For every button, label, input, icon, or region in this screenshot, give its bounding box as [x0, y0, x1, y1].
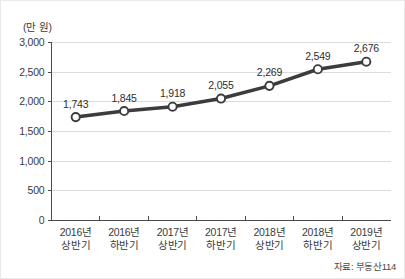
- x-tick-label: 2018년: [253, 226, 285, 238]
- y-tick-label: 2,500: [19, 66, 45, 78]
- data-point-marker: [217, 94, 225, 102]
- y-tick-label: 500: [28, 184, 45, 196]
- data-point-value-label: 1,743: [63, 98, 89, 110]
- data-point-value-label: 2,055: [208, 79, 234, 91]
- data-point-value-label: 2,549: [305, 50, 331, 62]
- x-tick-label: 2016년: [108, 226, 140, 238]
- y-tick-label: 1,500: [19, 125, 45, 137]
- x-tick-label: 2016년: [60, 226, 92, 238]
- x-tick-label: 하반기: [110, 239, 139, 251]
- y-tick-label: 0: [39, 214, 45, 226]
- x-tick-label: 상반기: [352, 239, 381, 251]
- x-tick-label: 상반기: [158, 239, 187, 251]
- data-point-marker: [265, 82, 273, 90]
- x-tick-label: 2017년: [205, 226, 237, 238]
- data-point-value-label: 1,845: [111, 92, 137, 104]
- chart-figure: (만 원) 05001,0001,5002,0002,5003,0002016년…: [0, 0, 405, 279]
- data-point-value-label: 1,918: [160, 87, 186, 99]
- x-tick-label: 상반기: [255, 239, 284, 251]
- data-point-marker: [72, 113, 80, 121]
- data-point-value-label: 2,676: [354, 42, 380, 54]
- y-tick-label: 2,000: [19, 95, 45, 107]
- line-chart-plot: 05001,0001,5002,0002,5003,0002016년상반기201…: [1, 1, 405, 279]
- x-tick-label: 2019년: [350, 226, 382, 238]
- data-point-marker: [168, 103, 176, 111]
- data-point-marker: [362, 58, 370, 66]
- x-tick-label: 2017년: [157, 226, 189, 238]
- data-point-marker: [120, 107, 128, 115]
- y-tick-label: 1,000: [19, 155, 45, 167]
- source-note: 자료: 부동산114: [334, 259, 396, 273]
- data-point-value-label: 2,269: [257, 66, 283, 78]
- x-tick-label: 하반기: [206, 239, 235, 251]
- x-tick-label: 하반기: [303, 239, 332, 251]
- data-point-marker: [314, 65, 322, 73]
- y-tick-label: 3,000: [19, 36, 45, 48]
- x-tick-label: 상반기: [61, 239, 90, 251]
- x-tick-label: 2018년: [302, 226, 334, 238]
